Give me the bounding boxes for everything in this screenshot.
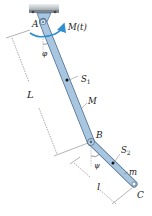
label-phi: φ — [42, 49, 48, 58]
label-L: L — [26, 89, 34, 100]
label-A: A — [31, 19, 39, 29]
pivot-A — [40, 19, 46, 25]
label-B: B — [95, 130, 103, 140]
double-pendulum-diagram: A M(t) φ S1 L M B S2 ψ m l C — [0, 0, 152, 216]
length-l-dimension — [70, 157, 132, 204]
label-S2: S2 — [121, 145, 131, 156]
label-C: C — [137, 190, 144, 200]
end-C — [132, 182, 136, 186]
label-S1: S1 — [81, 74, 91, 85]
label-moment: M(t) — [67, 22, 87, 32]
label-m: m — [129, 167, 137, 177]
label-psi: ψ — [94, 161, 100, 170]
label-l: l — [97, 181, 100, 192]
label-M: M — [87, 96, 97, 106]
pivot-B — [88, 139, 95, 146]
centroid-S1-dot — [66, 79, 69, 82]
centroid-S2-dot — [112, 162, 115, 165]
